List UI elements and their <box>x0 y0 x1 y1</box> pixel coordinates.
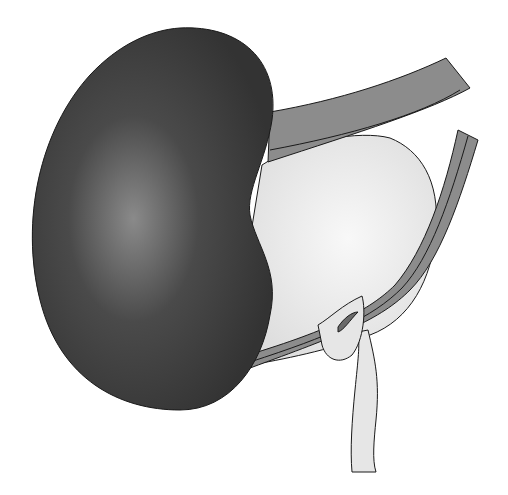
illustration-canvas <box>0 0 508 495</box>
kidney-diagram <box>0 0 508 495</box>
kidney <box>32 28 273 410</box>
